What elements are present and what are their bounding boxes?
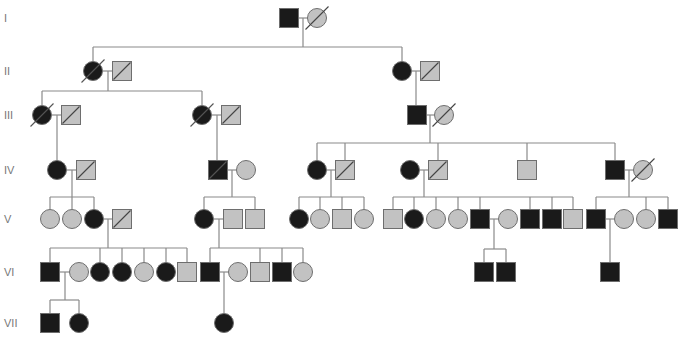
female-symbol-VI-9 [229, 263, 248, 282]
male-symbol-III-4 [222, 106, 241, 125]
male-symbol-VI-8 [201, 263, 220, 282]
circle-icon [308, 161, 327, 180]
male-symbol-III-5 [408, 106, 427, 125]
circle-icon [195, 210, 214, 229]
male-symbol-VI-1 [41, 263, 60, 282]
male-symbol-V-21 [587, 210, 606, 229]
female-symbol-VI-4 [113, 263, 132, 282]
generation-labels: IIIIIIIVVVIVII [4, 12, 17, 329]
square-icon [178, 263, 197, 282]
generation-label: II [4, 65, 10, 77]
female-symbol-II-1 [82, 60, 105, 83]
square-icon [41, 314, 60, 333]
male-symbol-V-18 [521, 210, 540, 229]
square-icon [224, 210, 243, 229]
circle-icon [401, 161, 420, 180]
circle-icon [637, 210, 656, 229]
circle-icon [48, 161, 67, 180]
female-symbol-III-6 [433, 104, 456, 127]
female-symbol-IV-5 [308, 161, 327, 180]
generation-label: IV [4, 164, 15, 176]
square-icon [564, 210, 583, 229]
female-symbol-VI-2 [70, 263, 89, 282]
square-icon [280, 9, 299, 28]
square-icon [201, 263, 220, 282]
circle-icon [113, 263, 132, 282]
male-symbol-V-24 [659, 210, 678, 229]
circle-icon [85, 210, 104, 229]
female-symbol-VII-3 [215, 314, 234, 333]
generation-label: V [4, 213, 12, 225]
female-symbol-V-2 [63, 210, 82, 229]
square-icon [475, 263, 494, 282]
circle-icon [63, 210, 82, 229]
female-symbol-IV-11 [632, 159, 655, 182]
male-symbol-V-6 [224, 210, 243, 229]
circle-icon [311, 210, 330, 229]
circle-icon [393, 62, 412, 81]
circle-icon [229, 263, 248, 282]
female-symbol-V-15 [449, 210, 468, 229]
male-symbol-V-4 [113, 210, 132, 229]
female-symbol-VI-5 [135, 263, 154, 282]
circle-icon [135, 263, 154, 282]
circle-icon [294, 263, 313, 282]
female-symbol-V-5 [195, 210, 214, 229]
female-symbol-V-13 [405, 210, 424, 229]
male-symbol-I-1 [280, 9, 299, 28]
male-symbol-VI-11 [273, 263, 292, 282]
female-symbol-VII-2 [70, 314, 89, 333]
female-symbol-IV-4 [237, 161, 256, 180]
generation-label: VI [4, 266, 14, 278]
male-symbol-II-2 [113, 62, 132, 81]
circle-icon [355, 210, 374, 229]
square-icon [273, 263, 292, 282]
circle-icon [70, 314, 89, 333]
female-symbol-IV-7 [401, 161, 420, 180]
circle-icon [405, 210, 424, 229]
male-symbol-VI-13 [475, 263, 494, 282]
female-symbol-V-1 [41, 210, 60, 229]
female-symbol-III-3 [191, 104, 214, 127]
square-icon [333, 210, 352, 229]
circle-icon [91, 263, 110, 282]
male-symbol-V-16 [471, 210, 490, 229]
male-symbol-II-4 [421, 62, 440, 81]
male-symbol-V-7 [246, 210, 265, 229]
male-symbol-V-10 [333, 210, 352, 229]
circle-icon [615, 210, 634, 229]
female-symbol-III-1 [31, 104, 54, 127]
square-icon [521, 210, 540, 229]
circle-icon [237, 161, 256, 180]
square-icon [659, 210, 678, 229]
female-symbol-II-3 [393, 62, 412, 81]
square-icon [251, 263, 270, 282]
male-symbol-IV-8 [429, 161, 448, 180]
square-icon [606, 161, 625, 180]
male-symbol-IV-6 [336, 161, 355, 180]
female-symbol-V-8 [290, 210, 309, 229]
square-icon [601, 263, 620, 282]
circle-icon [41, 210, 60, 229]
male-symbol-V-20 [564, 210, 583, 229]
female-symbol-V-11 [355, 210, 374, 229]
circle-icon [449, 210, 468, 229]
male-symbol-IV-2 [77, 161, 96, 180]
pedigree-chart: IIIIIIIVVVIVII [0, 0, 685, 340]
square-icon [246, 210, 265, 229]
square-icon [543, 210, 562, 229]
female-symbol-VI-3 [91, 263, 110, 282]
individuals [31, 7, 678, 333]
female-symbol-V-14 [427, 210, 446, 229]
female-symbol-V-17 [499, 210, 518, 229]
male-symbol-VI-7 [178, 263, 197, 282]
female-symbol-V-3 [85, 210, 104, 229]
circle-icon [70, 263, 89, 282]
square-icon [587, 210, 606, 229]
female-symbol-V-23 [637, 210, 656, 229]
male-symbol-VI-15 [601, 263, 620, 282]
generation-label: VII [4, 317, 17, 329]
female-symbol-I-2 [306, 7, 329, 30]
circle-icon [215, 314, 234, 333]
male-symbol-VII-1 [41, 314, 60, 333]
